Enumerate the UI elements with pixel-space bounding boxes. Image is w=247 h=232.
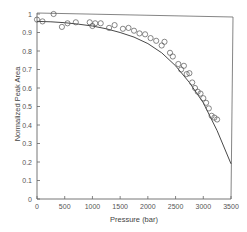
chart: 0500100015002000250030003500 00.10.20.30… xyxy=(0,0,247,232)
x-axis-title: Pressure (bar) xyxy=(110,215,158,224)
data-point-marker xyxy=(167,50,172,55)
right-border-line xyxy=(231,17,233,199)
x-tick-label: 1000 xyxy=(85,203,101,210)
data-point-marker xyxy=(98,21,103,26)
y-tick-label: 0.6 xyxy=(22,85,32,92)
y-tick-label: 0.4 xyxy=(22,122,32,129)
x-tick-label: 0 xyxy=(35,203,39,210)
data-point-marker xyxy=(143,32,148,37)
x-tick-label: 1500 xyxy=(112,203,128,210)
data-points xyxy=(34,11,219,122)
x-tick-label: 500 xyxy=(59,203,71,210)
fit-line xyxy=(37,21,231,163)
data-point-marker xyxy=(59,24,64,29)
data-point-marker xyxy=(131,28,136,33)
data-point-marker xyxy=(204,100,209,105)
data-point-marker xyxy=(154,38,159,43)
data-point-marker xyxy=(179,67,184,72)
data-point-marker xyxy=(87,20,92,25)
y-tick-label: 1 xyxy=(28,11,32,18)
x-tick-label: 2000 xyxy=(140,203,156,210)
data-point-marker xyxy=(170,54,175,59)
y-tick-label: 0.2 xyxy=(22,159,32,166)
y-tick-label: 0.3 xyxy=(22,140,32,147)
top-border-line xyxy=(37,13,233,17)
y-tick-label: 0.5 xyxy=(22,103,32,110)
x-axis-ticks: 0500100015002000250030003500 xyxy=(35,196,239,210)
fit-curve xyxy=(37,21,231,163)
y-tick-label: 0.1 xyxy=(22,177,32,184)
x-tick-label: 3000 xyxy=(195,203,211,210)
data-point-marker xyxy=(148,36,153,41)
data-point-marker xyxy=(176,61,181,66)
y-tick-label: 0.9 xyxy=(22,29,32,36)
plot-frame xyxy=(37,13,233,199)
data-point-marker xyxy=(190,80,195,85)
data-point-marker xyxy=(126,25,131,30)
data-point-marker xyxy=(181,63,186,68)
data-point-marker xyxy=(137,31,142,36)
x-tick-label: 3500 xyxy=(223,203,239,210)
y-axis-title: Normalized Peak Area xyxy=(13,66,22,141)
data-point-marker xyxy=(120,26,125,31)
y-tick-label: 0 xyxy=(28,196,32,203)
y-tick-label: 0.8 xyxy=(22,48,32,55)
y-tick-label: 0.7 xyxy=(22,66,32,73)
x-tick-label: 2500 xyxy=(168,203,184,210)
data-point-marker xyxy=(162,39,167,44)
data-point-marker xyxy=(112,23,117,28)
data-point-marker xyxy=(159,43,164,48)
data-point-marker xyxy=(51,11,56,16)
data-point-marker xyxy=(206,106,211,111)
